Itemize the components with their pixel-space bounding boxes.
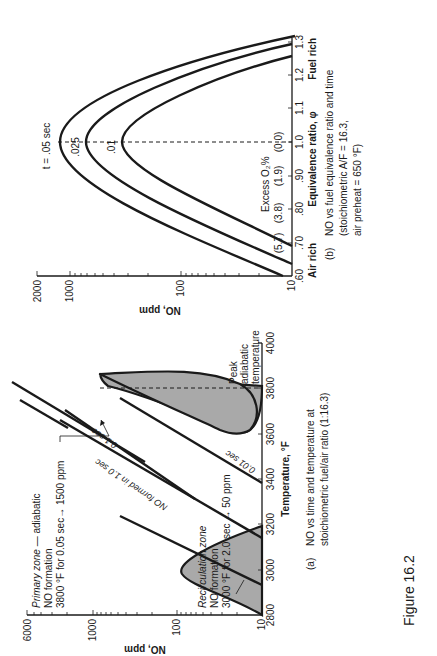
excess-o2-value: (5.7): [273, 233, 284, 254]
excess-o2-label: Excess O₂%: [260, 156, 271, 212]
x-tick-label: .70: [294, 236, 305, 250]
y-tick-label: 6000: [22, 619, 33, 642]
panel-b-tag: (b): [324, 248, 335, 260]
y-ticks-b: [37, 271, 259, 276]
x-tick-label: 1.0: [294, 135, 305, 149]
x-tick-label: 1.2: [294, 68, 305, 82]
x-tick-label: .90: [294, 169, 305, 183]
excess-o2-value: (1.9): [273, 166, 284, 187]
panel-a-caption-line1: NO vs time and temperature at: [305, 409, 316, 546]
x-tick-label: .60: [294, 269, 305, 283]
x-tick-label: 3000: [265, 558, 276, 581]
curve-label-0-01: .01: [106, 140, 117, 154]
arrow-head-icon: [100, 420, 105, 426]
panel-a-tag: (a): [305, 558, 316, 570]
curve-label-0-025: .025: [70, 137, 81, 157]
peak-adiabatic-label-3: temperature: [250, 330, 261, 384]
panel-a-caption-line2: stoichiometric fuel/air ratio (1:16.3): [319, 393, 330, 546]
peak-adiabatic-label: Peak: [228, 360, 239, 384]
curve-0-01-sec: [122, 56, 292, 246]
x-axis-label-a: Temperature, °F: [280, 441, 291, 517]
y-tick-label: 100: [171, 619, 182, 636]
panel-a-chart: 10 100 1000 6000 NO, ppm 2800 3000 3200 …: [12, 330, 291, 655]
x-tick-label: 3600: [265, 422, 276, 445]
curve-label-0-05: t = .05 sec: [41, 123, 52, 169]
y-tick-label: 100: [175, 280, 186, 297]
panel-b-chart: 10 100 1000 2000 NO, ppm .60 .70 .80 .90…: [32, 35, 318, 316]
primary-zone-annotation-3: 3800 °F for 0.05 sec→ 1500 ppm: [55, 461, 66, 608]
y-tick-label: 2000: [32, 280, 43, 303]
x-tick-label: 1.3: [294, 35, 305, 49]
panel-b-caption-line3: air preheat = 650 °F): [352, 144, 363, 236]
x-tick-label: 3400: [265, 467, 276, 490]
curve-label-1-0-sec: NO formed in 1.0 sec: [93, 457, 170, 513]
y-axis-label-a: NO, ppm: [124, 644, 166, 655]
x-tick-label: 4000: [265, 331, 276, 354]
x-tick-label: 2800: [265, 603, 276, 626]
y-tick-label: 1000: [64, 280, 75, 303]
x-tick-label: .80: [294, 202, 305, 216]
curve-t-0-05-sec: [60, 36, 295, 276]
panel-b-caption-line2: (stoichiometric A/F = 16.3,: [338, 120, 349, 236]
primary-zone-annotation-2: NO formation: [43, 549, 54, 608]
primary-zone-annotation: Primary zone — adiabatic: [31, 494, 42, 609]
x-axis-label-b: Equivalence ratio, φ: [307, 111, 318, 207]
excess-o2-value: (3.8): [273, 203, 284, 224]
curve-upper-far: [20, 400, 68, 428]
figure-canvas: 10 100 1000 6000 NO, ppm 2800 3000 3200 …: [0, 0, 437, 656]
x-tick-label: 1.1: [294, 101, 305, 115]
captions: (a) NO vs time and temperature at stoich…: [305, 69, 417, 626]
curve-upper-0-1-sec: [12, 382, 145, 462]
figure-label: Figure 16.2: [401, 555, 417, 626]
y-tick-label: 1000: [87, 619, 98, 642]
y-ticks-a: [27, 610, 262, 615]
panel-b-caption-line1: NO vs fuel equivalence ratio and time: [324, 69, 335, 236]
recirculation-zone-annotation-2: NO formation: [209, 549, 220, 608]
excess-o2-value: (0.0): [273, 132, 284, 153]
recirculation-zone-annotation: Recirculation zone: [197, 525, 208, 608]
x-tick-label: 3200: [265, 512, 276, 535]
peak-adiabatic-label-2: adiabatic: [239, 344, 250, 384]
y-axis-label-b: NO, ppm: [139, 305, 181, 316]
fuel-rich-label: Fuel rich: [307, 38, 318, 80]
air-rich-label: Air rich: [307, 243, 318, 278]
x-tick-label: 3800: [265, 376, 276, 399]
recirculation-zone-annotation-3: 3000 °F for 2.0 sec → 50 ppm: [221, 474, 232, 608]
